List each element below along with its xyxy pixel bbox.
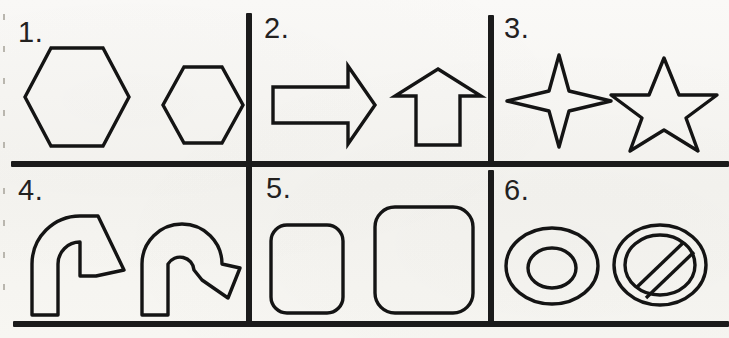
prohibition-sign [610,222,710,308]
cell-number-4: 4. [18,176,43,205]
cell-stars: 3. [488,0,729,161]
arrow-right [270,63,378,147]
cell-number-1: 1. [18,18,43,47]
cell-hexagons: 1. [0,0,246,161]
cell-curved-arrows: 4. [0,166,246,322]
star-4-point [504,52,614,150]
arrow-u-turn [132,218,244,318]
hexagon-large [22,45,132,149]
rounded-rectangle-small [268,222,346,316]
cell-number-5: 5. [266,174,291,203]
arrow-up [392,66,484,148]
cell-rings: 6. [488,166,729,322]
star-5-point [608,55,720,153]
rounded-rectangle-large [372,204,476,316]
cell-block-arrows: 2. [246,0,488,161]
cell-rounded-rectangles: 5. [246,166,488,322]
cell-number-6: 6. [504,176,529,205]
cell-number-2: 2. [264,14,289,43]
hexagon-small [160,64,246,146]
cell-number-3: 3. [504,14,529,43]
worksheet-page: 1. 2. 3. [0,0,729,338]
arrow-bent-right [24,214,138,318]
donut [502,224,602,308]
